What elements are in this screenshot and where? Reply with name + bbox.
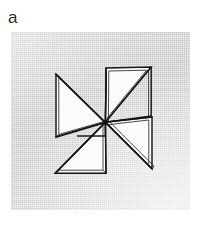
figure-screenshot: a: [0, 0, 205, 225]
pinwheel-drawing: [11, 32, 190, 210]
figure-panel: [11, 32, 190, 210]
panel-label: a: [8, 8, 17, 28]
lower-right-blade: [105, 117, 154, 169]
upper-left-blade: [56, 74, 105, 137]
